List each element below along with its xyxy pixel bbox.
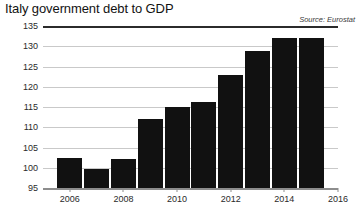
x-axis-tick-mark	[338, 188, 339, 192]
bar-2009	[138, 119, 163, 188]
x-axis-tick-mark	[284, 188, 285, 192]
x-axis-tick-label: 2012	[221, 194, 241, 204]
source-attribution: Source: Eurostat	[299, 15, 355, 24]
x-axis: 200620082010201220142016	[43, 188, 338, 217]
x-axis-tick-label: 2016	[328, 194, 348, 204]
y-axis-tick-label: 105	[23, 143, 38, 153]
y-axis-tick-label: 135	[23, 21, 38, 31]
bar-2007	[84, 169, 109, 188]
bar-2008	[111, 159, 136, 188]
x-axis-tick-label: 2010	[167, 194, 187, 204]
x-axis-tick-mark	[230, 188, 231, 192]
y-axis-tick-label: 115	[24, 102, 38, 112]
y-axis-tick-label: 120	[23, 82, 38, 92]
y-axis-tick-label: 130	[23, 41, 38, 51]
bars-group	[43, 26, 338, 188]
y-axis-tick-label: 110	[24, 122, 38, 132]
bar-2012	[218, 75, 243, 188]
x-axis-tick-label: 2006	[60, 194, 80, 204]
x-axis-tick-label: 2014	[274, 194, 294, 204]
y-axis-tick-label: 95	[28, 183, 38, 193]
x-axis-tick-mark	[69, 188, 70, 192]
x-axis-tick-mark	[123, 188, 124, 192]
bar-2015	[299, 38, 324, 188]
x-axis-tick-label: 2008	[113, 194, 133, 204]
bar-2013	[245, 51, 270, 188]
y-axis-tick-label: 125	[23, 62, 38, 72]
x-axis-tick-mark	[177, 188, 178, 192]
plot-area: 95100105110115120125130135	[43, 26, 338, 188]
chart-container: Italy government debt to GDP Source: Eur…	[0, 0, 361, 217]
bar-2011	[191, 102, 216, 188]
bar-2014	[272, 38, 297, 188]
bar-2006	[57, 158, 82, 188]
bar-2010	[165, 107, 190, 188]
y-axis-tick-label: 100	[23, 163, 38, 173]
page-title: Italy government debt to GDP	[5, 1, 173, 16]
